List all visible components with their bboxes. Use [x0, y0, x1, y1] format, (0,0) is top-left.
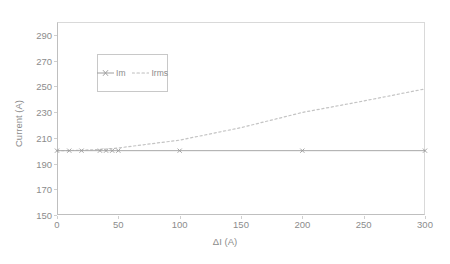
series-layer: [0, 0, 450, 264]
chart-container: 150170190210230250270290 050100150200250…: [0, 0, 450, 264]
series-irms-line: [57, 89, 425, 151]
chart-legend: Im Irms: [97, 54, 168, 92]
legend-entry-im: Im: [97, 68, 125, 78]
legend-marker-im-icon: [97, 69, 114, 77]
legend-label-irms: Irms: [151, 68, 168, 78]
series-im-group: [55, 149, 427, 153]
legend-entry-irms: Irms: [132, 68, 168, 78]
series-irms-group: [57, 89, 425, 151]
x-axis-title: ΔI (A): [0, 236, 450, 247]
legend-marker-irms-icon: [132, 69, 149, 77]
y-axis-title: Current (A): [13, 74, 24, 174]
legend-label-im: Im: [116, 68, 125, 78]
